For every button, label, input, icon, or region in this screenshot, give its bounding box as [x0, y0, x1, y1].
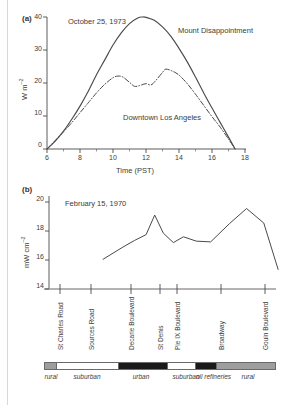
curve-downtown-los-angeles [47, 69, 235, 149]
panel-b-ytick-14: 14 [26, 282, 44, 289]
landuse-segment-oil-refineries [195, 363, 215, 369]
panel-a-label-mount-disappointment: Mount Disappointment [178, 26, 253, 35]
panel-a-ytick-0: 0 [24, 141, 42, 148]
panel-b-street-ticks [60, 284, 265, 294]
panel-b-ytick-16: 16 [26, 253, 44, 260]
landuse-segment-urban [118, 363, 167, 369]
panel-a-xtick-0800: 8 [66, 154, 94, 161]
panel-b-y-ticks [45, 202, 49, 289]
panel-a-xtick-1000: 10 [99, 154, 127, 161]
landuse-segment-suburban [167, 363, 195, 369]
panel-a-date-label: October 25, 1973 [68, 17, 126, 26]
panel-b-date-label: February 15, 1970 [65, 199, 126, 208]
panel-a-ytick-30: 30 [24, 45, 42, 52]
street-label-sources-road: Sources Road [88, 309, 95, 350]
landuse-bar [44, 362, 276, 370]
landuse-segment-suburban [56, 363, 118, 369]
street-label-st-charles-road: St Charles Road [57, 302, 64, 350]
panel-a-xtick-1400: 14 [165, 154, 193, 161]
panel-a-x-minor-ticks [64, 149, 229, 152]
landuse-label-urban: urban [123, 373, 159, 380]
panel-a-x-ticks [47, 149, 245, 153]
panel-a-ytick-40: 40 [24, 13, 42, 20]
panel-b-tag: (b) [22, 185, 32, 194]
panel-a-x-axis-title: Time (PST) [116, 166, 154, 175]
figure-container: (a) October 25, 1973 Mount Disappointmen… [0, 0, 287, 405]
landuse-label-rural-east: rural [228, 373, 268, 380]
landuse-segment-rural [216, 363, 275, 369]
panel-a-ytick-20: 20 [24, 77, 42, 84]
curve-mount-disappointment [47, 17, 235, 149]
panel-b-ytick-20: 20 [26, 195, 44, 202]
panel-a-label-downtown-los-angeles: Downtown Los Angeles [123, 113, 201, 122]
page-edge-line [7, 0, 8, 405]
panel-a-xtick-1200: 12 [132, 154, 160, 161]
street-label-pie-ix-boulevard: Pie IX Boulevard [174, 302, 181, 350]
landuse-label-suburban-west: suburban [58, 373, 116, 380]
panel-a-y-ticks [43, 17, 47, 149]
panel-b-ytick-18: 18 [26, 224, 44, 231]
panel-a-xtick-0600: 6 [33, 154, 61, 161]
landuse-segment-rural [45, 363, 56, 369]
panel-a-plot [0, 0, 287, 405]
street-label-st-denis: St Denis [157, 325, 164, 350]
street-label-decarie-boulevard: Decarie Boulevard [128, 297, 135, 350]
street-label-gouin-boulevard: Gouin Boulevard [262, 302, 269, 350]
panel-a-xtick-1800: 18 [231, 154, 259, 161]
curve-montreal-transect [103, 209, 278, 270]
panel-b-plot [0, 0, 287, 405]
panel-a-xtick-1600: 16 [198, 154, 226, 161]
street-label-broadway: Broadway [218, 321, 225, 350]
panel-a-ytick-10: 10 [24, 109, 42, 116]
